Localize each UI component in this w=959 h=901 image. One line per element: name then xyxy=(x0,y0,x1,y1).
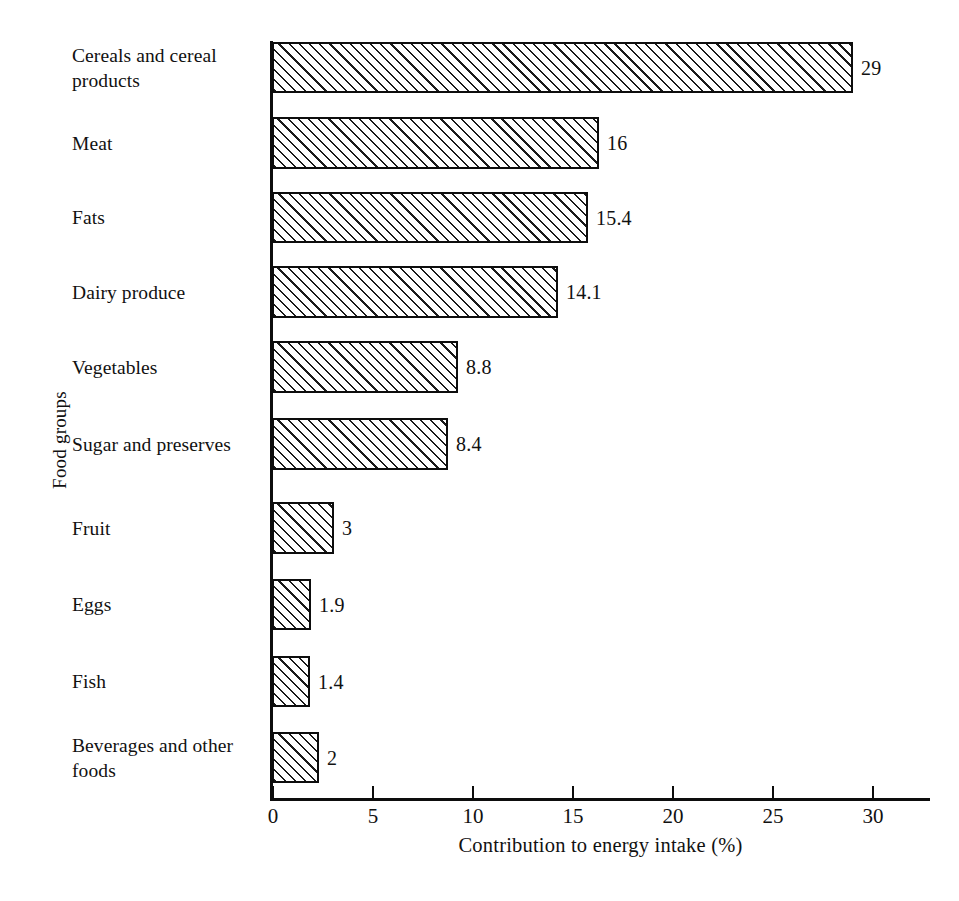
x-axis-tick xyxy=(372,786,374,799)
category-label: Fats xyxy=(72,205,268,230)
x-axis-tick xyxy=(672,786,674,799)
bar xyxy=(272,502,334,554)
bar-value-label: 8.4 xyxy=(456,434,482,454)
bar-value-label: 15.4 xyxy=(596,208,632,228)
x-axis-tick xyxy=(772,786,774,799)
x-axis-tick xyxy=(272,786,274,799)
x-axis-tick xyxy=(472,786,474,799)
bar xyxy=(272,341,458,393)
bar-value-label: 29 xyxy=(861,58,881,78)
y-axis-line xyxy=(270,41,273,801)
bar xyxy=(272,656,310,707)
bar-value-label: 14.1 xyxy=(566,282,602,302)
bar-value-label: 16 xyxy=(607,133,627,153)
bar xyxy=(272,192,588,243)
x-axis-tick-label: 5 xyxy=(343,803,403,829)
category-label: Beverages and other foods xyxy=(72,733,268,783)
x-axis-tick-label: 0 xyxy=(243,803,303,829)
bar xyxy=(272,579,311,630)
bar xyxy=(272,732,319,783)
x-axis-tick-label: 15 xyxy=(543,803,603,829)
x-axis-tick-label: 20 xyxy=(643,803,703,829)
bar-value-label: 2 xyxy=(327,748,337,768)
category-label: Meat xyxy=(72,131,268,156)
bar-value-label: 1.9 xyxy=(319,595,345,615)
bar-value-label: 3 xyxy=(342,518,352,538)
x-axis-line xyxy=(271,798,930,801)
x-axis-tick-label: 25 xyxy=(743,803,803,829)
bar xyxy=(272,117,599,169)
category-label: Fruit xyxy=(72,516,268,541)
category-label: Vegetables xyxy=(72,355,268,380)
x-axis-tick xyxy=(572,786,574,799)
category-label: Sugar and preserves xyxy=(72,432,268,457)
x-axis-title: Contribution to energy intake (%) xyxy=(271,832,930,858)
bar xyxy=(272,266,558,318)
bar-value-label: 8.8 xyxy=(466,357,492,377)
category-label: Cereals and cereal products xyxy=(72,43,268,93)
category-label: Eggs xyxy=(72,592,268,617)
bar-chart-figure: Food groups Cereals and cereal products2… xyxy=(0,0,959,901)
bar xyxy=(272,42,853,93)
plot-area: Cereals and cereal products29Meat16Fats1… xyxy=(0,0,959,901)
category-label: Fish xyxy=(72,669,268,694)
x-axis-tick-label: 10 xyxy=(443,803,503,829)
x-axis-tick xyxy=(872,786,874,799)
category-label: Dairy produce xyxy=(72,280,268,305)
bar xyxy=(272,418,448,470)
bar-value-label: 1.4 xyxy=(318,672,344,692)
x-axis-tick-label: 30 xyxy=(843,803,903,829)
